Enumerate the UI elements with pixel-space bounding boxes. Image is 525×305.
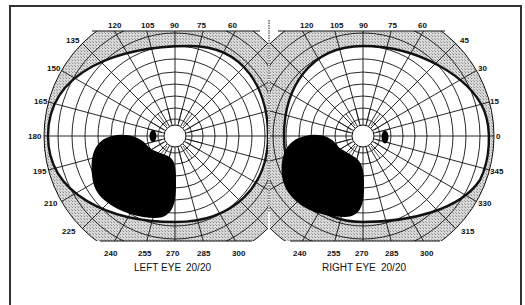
svg-text:225: 225 <box>62 227 76 236</box>
svg-text:300: 300 <box>420 249 434 258</box>
svg-text:75: 75 <box>197 21 206 30</box>
svg-text:315: 315 <box>461 227 475 236</box>
svg-text:240: 240 <box>104 249 118 258</box>
left-eye-label: LEFT EYE <box>134 262 181 273</box>
svg-text:120: 120 <box>108 21 122 30</box>
svg-text:45: 45 <box>460 36 469 45</box>
svg-text:285: 285 <box>197 249 211 258</box>
svg-text:255: 255 <box>138 249 152 258</box>
right-eye-acuity: 20/20 <box>381 262 406 273</box>
svg-text:60: 60 <box>418 21 427 30</box>
svg-text:345: 345 <box>490 167 504 176</box>
svg-text:90: 90 <box>359 21 368 30</box>
svg-text:30: 30 <box>478 64 487 73</box>
svg-text:195: 195 <box>33 167 47 176</box>
svg-text:180: 180 <box>28 132 42 141</box>
svg-text:165: 165 <box>34 97 48 106</box>
svg-text:105: 105 <box>141 21 155 30</box>
svg-text:255: 255 <box>327 249 341 258</box>
svg-text:75: 75 <box>388 21 397 30</box>
svg-text:60: 60 <box>228 21 237 30</box>
left-blind-spot <box>150 130 157 142</box>
svg-text:0: 0 <box>496 132 501 141</box>
svg-text:15: 15 <box>490 97 499 106</box>
svg-text:270: 270 <box>355 249 369 258</box>
right-eye-field <box>232 5 494 267</box>
svg-text:150: 150 <box>47 64 61 73</box>
svg-text:285: 285 <box>385 249 399 258</box>
svg-text:270: 270 <box>166 249 180 258</box>
svg-text:120: 120 <box>300 21 314 30</box>
svg-text:240: 240 <box>293 249 307 258</box>
svg-text:210: 210 <box>44 199 58 208</box>
svg-text:105: 105 <box>330 21 344 30</box>
svg-text:330: 330 <box>478 199 492 208</box>
left-eye-acuity: 20/20 <box>186 262 211 273</box>
right-blind-spot <box>382 131 389 144</box>
right-eye-label: RIGHT EYE <box>322 262 376 273</box>
svg-text:300: 300 <box>232 249 246 258</box>
svg-text:90: 90 <box>170 21 179 30</box>
left-eye-field <box>44 5 306 267</box>
svg-text:135: 135 <box>66 36 80 45</box>
